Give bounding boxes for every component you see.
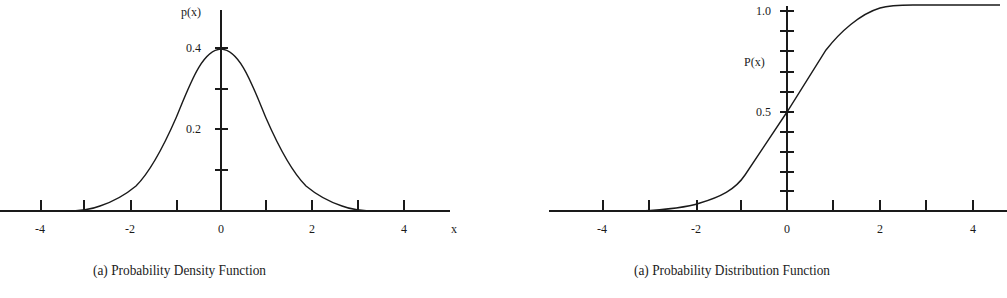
cdf-curve [640,5,1000,211]
cdf-chart [549,5,1007,211]
cdf-x-tick-label: 4 [970,222,976,236]
cdf-y-tick-label: 0.5 [756,105,771,119]
pdf-y-axis-label: p(x) [181,5,201,19]
figure: p(x) 0.4 0.2 -4 -2 0 2 4 x [0,0,1007,298]
pdf-y-tick-label: 0.2 [186,122,201,136]
pdf-x-tick-label: 4 [401,222,407,236]
cdf-x-tick-label: -2 [691,222,701,236]
pdf-caption: (a) Probability Density Function [93,262,266,279]
pdf-x-tick-label: -2 [125,222,135,236]
pdf-x-axis-label: x [451,222,457,236]
cdf-y-tick-label: 1.0 [756,4,771,18]
cdf-x-tick-label: 0 [784,222,790,236]
pdf-labels: p(x) 0.4 0.2 -4 -2 0 2 4 x [35,5,457,236]
pdf-x-ticks [41,200,404,211]
pdf-chart [0,10,450,211]
pdf-x-tick-label: 2 [309,222,315,236]
pdf-x-tick-label: 0 [218,222,224,236]
cdf-x-tick-label: 2 [877,222,883,236]
pdf-x-tick-label: -4 [35,222,45,236]
cdf-y-axis-label: P(x) [744,55,765,69]
cdf-x-tick-label: -4 [597,222,607,236]
cdf-caption: (a) Probability Distribution Function [634,262,830,279]
pdf-y-tick-label: 0.4 [186,41,201,55]
